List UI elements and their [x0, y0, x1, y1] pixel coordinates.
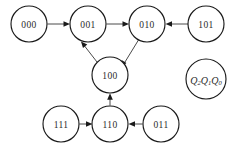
edge-100-to-001	[81, 41, 97, 62]
edge-101-to-010	[166, 21, 189, 27]
state-node-001-label: 001	[80, 20, 95, 30]
state-variable-legend: Q2Q1Q0	[186, 59, 226, 99]
state-diagram-svg: 000 001 010 101 100 111	[0, 0, 245, 149]
state-node-000[interactable]: 000	[11, 6, 47, 42]
state-node-100-label: 100	[102, 71, 117, 81]
state-node-100[interactable]: 100	[92, 57, 128, 93]
state-variable-legend-label: Q2Q1Q0	[190, 74, 222, 86]
state-node-001[interactable]: 001	[70, 6, 106, 42]
edge-001-to-010	[107, 21, 130, 27]
state-node-011-label: 011	[153, 120, 168, 130]
state-node-000-label: 000	[21, 20, 36, 30]
state-node-110[interactable]: 110	[92, 106, 128, 142]
state-diagram-canvas: 000 001 010 101 100 111	[0, 0, 245, 149]
state-node-010[interactable]: 010	[129, 6, 165, 42]
edge-110-to-100	[107, 93, 113, 105]
edge-000-to-001	[48, 21, 71, 27]
state-node-110-label: 110	[102, 120, 117, 130]
state-node-111[interactable]: 111	[43, 106, 79, 142]
state-node-010-label: 010	[139, 20, 154, 30]
state-node-101-label: 101	[198, 20, 213, 30]
state-node-101[interactable]: 101	[188, 6, 224, 42]
edge-011-to-110	[129, 121, 143, 127]
state-node-011[interactable]: 011	[143, 106, 179, 142]
edge-111-to-110	[80, 121, 93, 127]
state-node-111-label: 111	[54, 120, 69, 130]
